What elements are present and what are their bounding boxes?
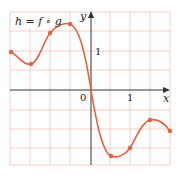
graph-canvas: h = f ∘ g y x 0 1 1 — [0, 0, 182, 176]
chart-title: h = f ∘ g — [15, 15, 62, 28]
y-axis-label: y — [79, 10, 87, 23]
y-tick-1-label: 1 — [95, 46, 101, 57]
x-axis-label: x — [163, 92, 170, 105]
x-tick-1-label: 1 — [127, 92, 133, 103]
origin-label: 0 — [80, 92, 86, 103]
